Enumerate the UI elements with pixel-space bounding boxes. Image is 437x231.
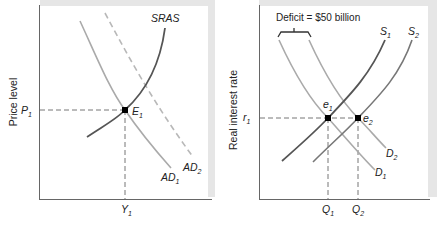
ad2-label: AD2 xyxy=(182,161,202,175)
left-frame-top xyxy=(40,0,215,6)
q2-label: Q2 xyxy=(352,203,364,217)
e1-point xyxy=(122,107,128,113)
sras-label: SRAS xyxy=(151,12,180,24)
s2-label: S2 xyxy=(408,25,419,39)
d2-curve xyxy=(309,40,386,148)
right-frame-top xyxy=(259,0,437,6)
d2-label: D2 xyxy=(386,147,398,161)
s1-label: S1 xyxy=(380,25,391,39)
right-frame-right xyxy=(428,0,437,197)
left-panel: SRAS E1 P1 Y1 AD2 AD1 Price level xyxy=(7,0,215,217)
r1-label: r1 xyxy=(243,111,251,125)
q1-label: Q1 xyxy=(322,203,334,217)
p1-label: P1 xyxy=(21,104,32,118)
e2-label: e2 xyxy=(363,112,373,126)
deficit-label: Deficit = $50 billion xyxy=(276,12,360,23)
ad2-curve xyxy=(105,13,193,157)
right-panel: Deficit = $50 billion S1 S2 e1 e2 D2 D1 … xyxy=(227,0,437,217)
e2-point xyxy=(355,115,361,121)
d1-label: D1 xyxy=(375,166,387,180)
sras-curve xyxy=(87,28,165,137)
e1-point-right xyxy=(325,115,331,121)
ad1-label: AD1 xyxy=(160,171,180,185)
e1-label: E1 xyxy=(132,105,143,119)
deficit-bracket xyxy=(278,28,311,37)
y1-label: Y1 xyxy=(121,203,132,217)
right-y-axis-label: Real interest rate xyxy=(227,70,239,150)
left-frame-right xyxy=(208,0,215,197)
left-y-axis-label: Price level xyxy=(7,78,19,126)
e1-label-right: e1 xyxy=(323,98,333,112)
diagram-canvas: SRAS E1 P1 Y1 AD2 AD1 Price level Defici… xyxy=(0,0,437,231)
